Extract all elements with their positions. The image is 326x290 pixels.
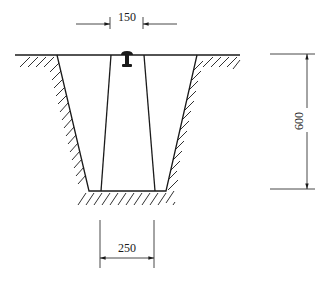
dimension-bottom-width: 250 <box>100 220 154 268</box>
trench-cross-section-diagram: 150 600 250 <box>0 0 326 290</box>
dimension-label-600: 600 <box>292 112 306 130</box>
soil-hatching-right-top <box>203 57 240 69</box>
soil-hatching-bottom <box>78 191 175 205</box>
soil-hatching-left-top <box>20 57 54 67</box>
dimension-depth: 600 <box>270 54 315 189</box>
trench-outline <box>57 55 197 191</box>
pole-top-cap-icon <box>121 51 133 67</box>
soil-hatching-left-wall <box>50 63 86 184</box>
dimension-label-150: 150 <box>118 10 136 24</box>
soil-hatching-right-wall <box>168 61 203 190</box>
dimension-label-250: 250 <box>118 241 136 255</box>
pole-outline <box>101 55 155 191</box>
dimension-top-width: 150 <box>76 10 177 29</box>
